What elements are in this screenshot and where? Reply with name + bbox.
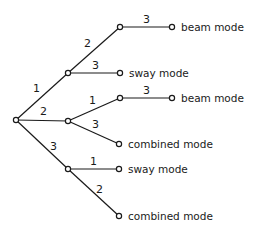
- leaf-node: [169, 24, 174, 29]
- leaf-label: beam mode: [181, 21, 244, 33]
- edge-n3-leaf6: [68, 169, 119, 216]
- edge-label: 2: [96, 183, 103, 196]
- tree-node: [65, 166, 70, 171]
- edge-root-n3: [16, 120, 68, 169]
- tree-node: [65, 70, 70, 75]
- tree-node: [117, 24, 122, 29]
- edge-label: 1: [89, 94, 96, 107]
- leaf-label: combined mode: [128, 138, 213, 150]
- edge-label: 3: [50, 140, 57, 153]
- leaf-node: [169, 95, 174, 100]
- tree-node: [117, 95, 122, 100]
- edge-label: 3: [143, 84, 150, 97]
- mode-tree-diagram: 1 2 3 2 3 3 1 3 3 1 2 beam mode sway mod…: [0, 0, 264, 237]
- edge-label: 1: [33, 82, 40, 95]
- edge-root-n2: [16, 120, 68, 121]
- edge-label: 2: [84, 37, 91, 50]
- leaf-label: sway mode: [129, 67, 189, 79]
- edge-label: 2: [40, 105, 47, 118]
- edge-label: 3: [92, 59, 99, 72]
- edge-label: 3: [92, 118, 99, 131]
- leaf-node: [116, 166, 121, 171]
- leaf-label: beam mode: [181, 92, 244, 104]
- leaf-node: [116, 213, 121, 218]
- leaf-node: [117, 70, 122, 75]
- leaf-node: [116, 141, 121, 146]
- root-node: [13, 117, 18, 122]
- edge-label: 3: [143, 13, 150, 26]
- tree-node: [65, 118, 70, 123]
- edge-label: 1: [90, 155, 97, 168]
- leaf-label: combined mode: [128, 210, 213, 222]
- leaf-label: sway mode: [128, 163, 188, 175]
